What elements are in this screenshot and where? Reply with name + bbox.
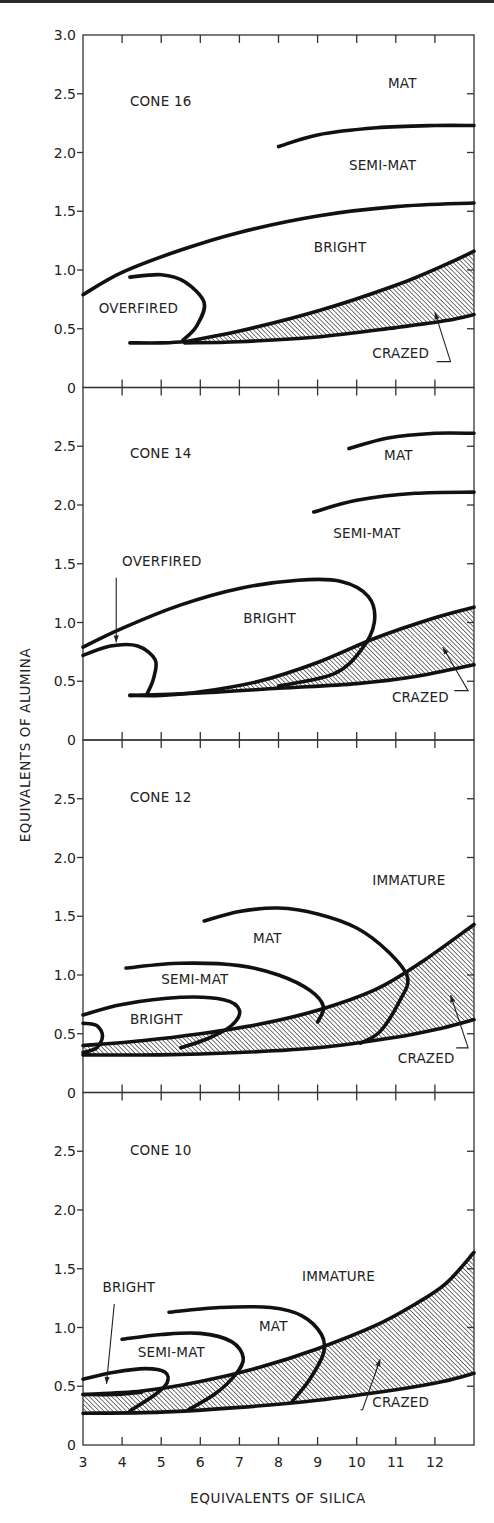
boundary-overfired (83, 644, 156, 693)
x-tick-label: 8 (274, 1454, 283, 1470)
y-tick-label: 1.5 (54, 203, 76, 219)
y-tick-label: 2.5 (54, 1143, 76, 1159)
x-tick-label: 4 (118, 1454, 127, 1470)
y-tick-label: 1.0 (54, 1320, 76, 1336)
region-label: IMMATURE (372, 872, 445, 888)
y-tick-label: 1.0 (54, 615, 76, 631)
crazed-region (185, 251, 474, 343)
region-label: BRIGHT (243, 610, 296, 626)
region-label: SEMI-MAT (333, 525, 401, 541)
y-tick-label: 3.0 (54, 27, 76, 43)
boundary-mat-semi-mat (349, 433, 474, 449)
region-label: CONE 10 (130, 1142, 192, 1158)
y-tick-label: 1.0 (54, 262, 76, 278)
y-tick-label: 0 (67, 380, 76, 396)
y-tick-label: 0 (67, 732, 76, 748)
region-label: BRIGHT (103, 1279, 156, 1295)
y-tick-label: 0.5 (54, 321, 76, 337)
region-label: SEMI-MAT (161, 971, 229, 987)
y-tick-label: 0.5 (54, 1378, 76, 1394)
region-label: BRIGHT (130, 1011, 183, 1027)
y-tick-label: 0 (67, 1437, 76, 1453)
region-label: MAT (384, 447, 413, 463)
region-label: CONE 16 (130, 93, 192, 109)
boundary-semi-mat-immature (314, 492, 474, 512)
glaze-maturity-chart: 00.51.01.52.02.53.0CONE 16MATSEMI-MATBRI… (0, 0, 494, 1523)
y-tick-label: 1.5 (54, 908, 76, 924)
chart-panels: 00.51.01.52.02.53.0CONE 16MATSEMI-MATBRI… (54, 27, 474, 1470)
x-tick-label: 7 (235, 1454, 244, 1470)
region-label: MAT (259, 1318, 288, 1334)
x-tick-label: 10 (348, 1454, 366, 1470)
region-label: BRIGHT (314, 239, 367, 255)
y-axis-title: EQUIVALENTS OF ALUMINA (17, 647, 33, 842)
y-tick-label: 2.0 (54, 145, 76, 161)
boundary-mat-semi-mat (279, 125, 475, 146)
region-label: CRAZED (372, 345, 429, 361)
region-label: SEMI-MAT (349, 157, 417, 173)
y-tick-label: 1.5 (54, 1261, 76, 1277)
panel-cone-12: 00.51.01.52.02.5CONE 12IMMATUREMATSEMI-M… (54, 740, 474, 1101)
x-axis-title: EQUIVALENTS OF SILICA (190, 1490, 366, 1506)
region-label: OVERFIRED (99, 300, 178, 316)
y-tick-label: 2.5 (54, 791, 76, 807)
region-label: CRAZED (398, 1050, 455, 1066)
y-tick-label: 2.5 (54, 438, 76, 454)
region-label: CONE 12 (130, 789, 192, 805)
x-tick-label: 12 (426, 1454, 444, 1470)
arrowhead-icon (114, 635, 119, 642)
x-tick-label: 6 (196, 1454, 205, 1470)
x-tick-label: 3 (79, 1454, 88, 1470)
region-label: OVERFIRED (122, 553, 201, 569)
y-tick-label: 2.5 (54, 86, 76, 102)
x-tick-label: 9 (313, 1454, 322, 1470)
y-tick-label: 2.0 (54, 850, 76, 866)
region-label: MAT (253, 930, 282, 946)
y-tick-label: 2.0 (54, 1202, 76, 1218)
y-tick-label: 0.5 (54, 673, 76, 689)
region-label: IMMATURE (302, 1268, 375, 1284)
y-tick-label: 0 (67, 1085, 76, 1101)
arrowhead-icon (105, 1377, 110, 1384)
x-tick-label: 11 (387, 1454, 405, 1470)
panel-cone-14: 00.51.01.52.02.5CONE 14MATSEMI-MATOVERFI… (54, 388, 474, 749)
x-tick-label: 5 (157, 1454, 166, 1470)
y-tick-label: 1.0 (54, 967, 76, 983)
panel-cone-10: 00.51.01.52.02.5CONE 10IMMATUREBRIGHTMAT… (54, 1093, 474, 1454)
region-label: MAT (388, 75, 417, 91)
region-label: CONE 14 (130, 445, 192, 461)
region-label: CRAZED (392, 689, 449, 705)
boundary-overfired-bottom (130, 342, 185, 343)
y-tick-label: 1.5 (54, 556, 76, 572)
region-label: SEMI-MAT (138, 1344, 206, 1360)
y-tick-label: 2.0 (54, 497, 76, 513)
region-label: CRAZED (372, 1394, 429, 1410)
panel-cone-16: 00.51.01.52.02.53.0CONE 16MATSEMI-MATBRI… (54, 27, 474, 396)
y-tick-label: 0.5 (54, 1026, 76, 1042)
